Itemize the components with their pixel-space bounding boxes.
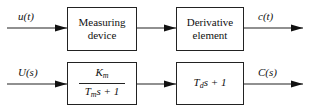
block-label-line1: Derivative	[187, 16, 233, 29]
numerator: K	[95, 66, 102, 78]
denominator-rest: s + 1	[97, 85, 120, 97]
derivative-transfer-function-block: Tds + 1	[176, 62, 244, 105]
input-label-time: u(t)	[18, 10, 34, 22]
input-label-s: U(s)	[18, 66, 38, 78]
output-label-s: C(s)	[258, 66, 277, 78]
derivative-element-block: Derivative element	[176, 7, 244, 51]
numerator-subscript: m	[103, 71, 109, 80]
measuring-device-block: Measuring device	[67, 7, 137, 51]
measuring-transfer-function-block: Km Tms + 1	[67, 62, 137, 105]
block-label-line2: element	[187, 29, 233, 42]
block-label-line2: device	[78, 29, 125, 42]
output-label-time: c(t)	[258, 10, 273, 22]
block-label-line1: Measuring	[78, 16, 125, 29]
tf-rest: s + 1	[204, 76, 227, 88]
transfer-fraction: Km Tms + 1	[79, 66, 126, 101]
